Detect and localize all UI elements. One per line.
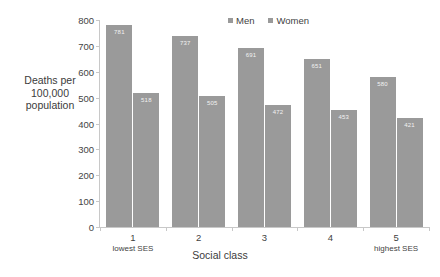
x-axis-label-main: 4 [328,232,333,243]
bar-women[interactable]: 472 [265,105,291,227]
bar-value-label: 472 [273,109,284,115]
y-tick-mark [96,227,99,228]
x-axis-title: Social class [0,249,440,261]
bar-value-label: 453 [338,114,349,120]
bar-group: 691472 [232,20,298,227]
bar-women[interactable]: 453 [331,110,357,227]
bar-value-label: 421 [404,122,415,128]
y-tick-mark [96,149,99,150]
x-tick-mark [363,227,364,231]
bar-value-label: 781 [114,29,125,35]
y-tick-mark [96,201,99,202]
bar-group: 651453 [297,20,363,227]
bar-women[interactable]: 421 [397,118,423,227]
bar-value-label: 651 [311,63,322,69]
x-tick-mark [429,227,430,231]
bar-women[interactable]: 505 [199,96,225,227]
y-tick-mark [96,98,99,99]
bar-men[interactable]: 691 [238,48,264,227]
y-tick-label: 0 [89,222,94,233]
bar-value-label: 518 [141,97,152,103]
y-tick-label: 700 [78,40,94,51]
y-tick-mark [96,46,99,47]
x-axis-label-main: 2 [196,232,201,243]
y-tick-mark [96,20,99,21]
bar-group: 737505 [166,20,232,227]
y-tick-label: 200 [78,170,94,181]
bar-men[interactable]: 737 [172,36,198,227]
y-tick-mark [96,124,99,125]
x-axis-line [99,227,429,228]
bar-men[interactable]: 651 [304,59,330,227]
bar-value-label: 505 [207,100,218,106]
bar-value-label: 580 [377,81,388,87]
x-tick-mark [232,227,233,231]
bar-women[interactable]: 518 [133,93,159,227]
bar-men[interactable]: 580 [370,77,396,227]
y-tick-label: 300 [78,144,94,155]
x-tick-mark [166,227,167,231]
y-tick-label: 400 [78,118,94,129]
y-tick-label: 800 [78,15,94,26]
bar-value-label: 737 [180,40,191,46]
plot-area: 8007006005004003002001000 78151873750569… [99,20,429,227]
bar-value-label: 691 [246,52,257,58]
y-tick-label: 100 [78,196,94,207]
x-axis-label-main: 1 [130,232,135,243]
bar-men[interactable]: 781 [106,25,132,227]
x-axis-label-main: 3 [262,232,267,243]
y-tick-label: 500 [78,92,94,103]
x-tick-mark [100,227,101,231]
bar-group: 580421 [363,20,429,227]
y-tick-mark [96,175,99,176]
x-axis-label-main: 5 [393,232,398,243]
bar-group: 781518 [100,20,166,227]
y-tick-mark [96,72,99,73]
bar-groups: 781518737505691472651453580421 [100,20,429,227]
bar-chart: Men Women Deaths per 100,000 population … [0,0,440,277]
x-tick-mark [297,227,298,231]
y-tick-label: 600 [78,66,94,77]
